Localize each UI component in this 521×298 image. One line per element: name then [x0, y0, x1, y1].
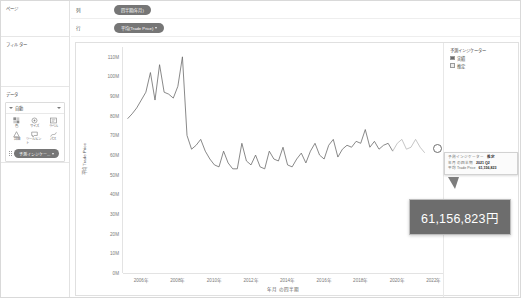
- chart-line-推定: [393, 139, 425, 152]
- highlighted-data-point[interactable]: [433, 144, 442, 153]
- marks-type-label: 自動: [15, 105, 23, 111]
- tooltip-row: 平均 Trade Price 61,156,823: [448, 166, 514, 172]
- y-axis-ticks: 110M100M90M80M70M60M50M40M30M20M10M0M: [88, 43, 122, 275]
- marks-type-selector[interactable]: 自動: [6, 103, 64, 114]
- rows-pill-avg-trade-price[interactable]: 平均(Trade Price): [114, 23, 164, 33]
- rows-shelf[interactable]: 行 平均(Trade Price): [71, 19, 520, 37]
- x-axis-tick: 2022年: [426, 277, 441, 283]
- marks-buttons: 色 サイズ ラベル: [6, 114, 64, 147]
- columns-shelf-label: 列: [76, 7, 114, 13]
- marks-button-tooltip-label: ツールヒント: [26, 138, 43, 145]
- tooltip-key: 平均 Trade Price: [448, 166, 475, 172]
- size-icon: [31, 117, 38, 124]
- x-axis-tick: 2020年: [390, 277, 405, 283]
- legend-item-actual[interactable]: 実績: [450, 55, 514, 61]
- y-axis-tick: 30M: [110, 212, 119, 217]
- callout-pointer: [448, 177, 459, 189]
- x-axis-tick: 2006年: [134, 277, 149, 283]
- marks-button-size[interactable]: サイズ: [26, 116, 43, 129]
- legend-title: 予測インジケーター: [450, 47, 514, 53]
- y-axis-tick: 0M: [113, 271, 119, 276]
- y-axis-tick: 80M: [110, 113, 119, 118]
- rows-pill-label: 平均(Trade Price): [121, 25, 153, 31]
- shelves-area: 列 四半期(年月) 行 平均(Trade Price): [71, 1, 520, 41]
- marks-button-label[interactable]: ラベル: [45, 116, 62, 129]
- marks-pane-title: データ: [1, 87, 69, 99]
- x-axis-tick: 2010年: [207, 277, 222, 283]
- y-axis-tick: 60M: [110, 153, 119, 158]
- x-axis-tick: 2014年: [280, 277, 295, 283]
- chart-line-実績: [128, 57, 393, 169]
- legend-label-estimate: 推定: [457, 63, 465, 69]
- marks-button-label-label: ラベル: [49, 125, 58, 128]
- drag-handle-icon[interactable]: [9, 151, 12, 156]
- x-axis-line: [123, 273, 443, 274]
- x-axis-tick: 2016年: [317, 277, 332, 283]
- value-callout: 61,156,823円: [409, 199, 511, 235]
- y-axis-tick: 70M: [110, 133, 119, 138]
- marks-button-size-label: サイズ: [30, 125, 39, 128]
- marks-pill-forecast-indicator[interactable]: 予測インジケー...: [14, 149, 59, 158]
- tooltip-detail: 予測インジケーター 推定 年月 の四半期 2021 Q2 平均 Trade Pr…: [444, 152, 518, 175]
- x-axis-tick: 2012年: [243, 277, 258, 283]
- legend-label-actual: 実績: [457, 55, 465, 61]
- left-sidebar: ページ フィルター データ 自動: [1, 1, 70, 297]
- marks-button-path[interactable]: パス: [45, 130, 62, 146]
- y-axis-tick: 90M: [110, 94, 119, 99]
- rows-shelf-label: 行: [76, 25, 114, 31]
- marks-button-color[interactable]: 色: [8, 116, 25, 129]
- marks-button-path-label: パス: [50, 138, 56, 141]
- line-chart-plot: [123, 47, 443, 273]
- marks-button-detail-label: 詳細: [14, 138, 20, 141]
- y-axis-tick: 20M: [110, 231, 119, 236]
- legend-item-estimate[interactable]: 推定: [450, 63, 514, 69]
- y-axis-tick: 100M: [108, 74, 120, 79]
- label-icon: [50, 117, 57, 124]
- pages-pane[interactable]: ページ: [1, 1, 69, 37]
- chart-svg: [123, 47, 443, 273]
- filters-pane-title: フィルター: [1, 37, 69, 49]
- marks-pill-label: 予測インジケー...: [19, 151, 50, 157]
- marks-button-color-label: 色: [15, 125, 18, 128]
- marks-pill-row: 予測インジケー...: [6, 147, 64, 161]
- chevron-down-icon: [52, 153, 54, 155]
- columns-shelf[interactable]: 列 四半期(年月): [71, 1, 520, 19]
- filters-pane[interactable]: フィルター: [1, 37, 69, 87]
- legend: 予測インジケーター 実績 推定: [450, 47, 514, 70]
- pages-pane-title: ページ: [1, 1, 69, 13]
- legend-swatch-estimate: [450, 63, 455, 68]
- legend-swatch-actual: [450, 56, 455, 61]
- marks-pane: データ 自動 色: [1, 87, 69, 163]
- chevron-down-icon: [155, 27, 157, 29]
- y-axis-tick: 50M: [110, 172, 119, 177]
- x-axis-tick: 2008年: [170, 277, 185, 283]
- y-axis-tick: 110M: [108, 54, 119, 59]
- x-axis-tick: 2018年: [353, 277, 368, 283]
- color-icon: [13, 117, 20, 124]
- x-axis-title: 年月 の四半期: [123, 286, 443, 292]
- marks-card: 自動 色 サイズ: [5, 102, 65, 162]
- y-axis-tick: 10M: [110, 251, 119, 256]
- chevron-down-icon: [9, 107, 13, 109]
- tableau-worksheet: ページ フィルター データ 自動: [0, 0, 521, 298]
- marks-button-tooltip[interactable]: ツールヒント: [26, 130, 43, 146]
- chevron-down-icon-right[interactable]: [57, 107, 61, 109]
- marks-button-detail[interactable]: 詳細: [8, 130, 25, 146]
- y-axis-tick: 40M: [110, 192, 119, 197]
- value-callout-text: 61,156,823円: [421, 208, 499, 227]
- columns-pill-quarter-date[interactable]: 四半期(年月): [114, 5, 151, 15]
- tooltip-value: 61,156,823: [478, 166, 496, 172]
- columns-pill-label: 四半期(年月): [121, 7, 144, 13]
